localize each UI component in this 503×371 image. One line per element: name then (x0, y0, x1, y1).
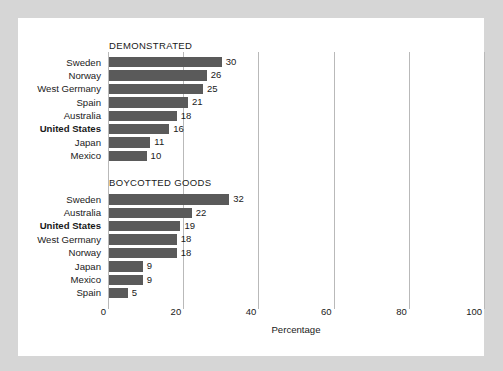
bar-row: Sweden30 (108, 56, 484, 69)
bar-value-label: 5 (132, 287, 137, 299)
bar-value-label: 10 (151, 150, 162, 162)
x-tick-40 (258, 302, 259, 309)
category-label: Norway (68, 246, 101, 259)
bar-row: Japan9 (108, 260, 484, 273)
group-title: DEMONSTRATED (109, 40, 192, 51)
category-label: West Germany (37, 82, 101, 95)
bar-row: Australia22 (108, 207, 484, 220)
bar-value-label: 26 (211, 69, 222, 81)
bar (109, 275, 143, 285)
bar-row: West Germany18 (108, 233, 484, 246)
bar (109, 248, 177, 258)
bar (109, 151, 147, 161)
bar-value-label: 22 (196, 207, 207, 219)
bar-row: Norway18 (108, 247, 484, 260)
x-tick-label-20: 20 (171, 306, 184, 317)
x-tick-label-60: 60 (321, 306, 334, 317)
x-axis-title: Percentage (108, 324, 484, 335)
x-tick-80 (409, 302, 410, 309)
category-label: Sweden (66, 193, 101, 206)
bar (109, 234, 177, 244)
x-tick-label-0: 0 (101, 306, 108, 317)
bar (109, 70, 207, 80)
category-label: Norway (68, 69, 101, 82)
bar-value-label: 32 (233, 193, 244, 205)
bar-value-label: 18 (181, 233, 192, 245)
group-rows: Sweden32Australia22United States19West G… (108, 193, 484, 300)
bar-row: Norway26 (108, 69, 484, 82)
bar-value-label: 9 (147, 274, 152, 286)
category-label: Australia (64, 109, 101, 122)
category-label: Australia (64, 206, 101, 219)
category-label: United States (40, 122, 101, 135)
category-label: Spain (76, 96, 101, 109)
x-tick-20 (183, 302, 184, 309)
bar-value-label: 11 (154, 136, 164, 148)
category-label: Spain (76, 286, 101, 299)
bar-value-label: 9 (147, 260, 152, 272)
group-title: BOYCOTTED GOODS (109, 177, 211, 188)
plot-area: DEMONSTRATEDSweden30Norway26West Germany… (108, 40, 484, 340)
bar-row: United States19 (108, 220, 484, 233)
bar-row: Mexico9 (108, 274, 484, 287)
x-tick-label-40: 40 (246, 306, 259, 317)
bar-row: United States16 (108, 123, 484, 136)
bar-row: Mexico10 (108, 150, 484, 163)
bar-value-label: 18 (181, 110, 192, 122)
bar-value-label: 16 (173, 123, 184, 135)
category-label: Sweden (66, 56, 101, 69)
bar (109, 84, 203, 94)
bar (109, 111, 177, 121)
bar (109, 288, 128, 298)
bar-value-label: 21 (192, 96, 203, 108)
bar (109, 57, 222, 67)
bar-row: Sweden32 (108, 193, 484, 206)
bar-row: Spain21 (108, 96, 484, 109)
bar-value-label: 25 (207, 83, 218, 95)
x-tick-label-100: 100 (466, 306, 484, 317)
x-tick-100 (484, 302, 485, 309)
category-label: West Germany (37, 233, 101, 246)
bar (109, 208, 192, 218)
category-label: Mexico (71, 149, 101, 162)
x-tick-60 (334, 302, 335, 309)
bar-row: Spain5 (108, 287, 484, 300)
screenshot-root: DEMONSTRATEDSweden30Norway26West Germany… (0, 0, 503, 371)
category-label: Japan (75, 136, 101, 149)
x-tick-0 (108, 302, 109, 309)
gridline-100 (484, 52, 485, 302)
bar (109, 97, 188, 107)
bar-value-label: 30 (226, 56, 237, 68)
bar-value-label: 18 (181, 247, 192, 259)
bar (109, 194, 229, 204)
chart-panel: DEMONSTRATEDSweden30Norway26West Germany… (18, 18, 484, 356)
category-label: United States (40, 219, 101, 232)
bar-row: West Germany25 (108, 83, 484, 96)
group-rows: Sweden30Norway26West Germany25Spain21Aus… (108, 56, 484, 163)
bar-value-label: 19 (184, 220, 195, 232)
bar (109, 221, 180, 231)
category-label: Mexico (71, 273, 101, 286)
bar (109, 124, 169, 134)
bar (109, 137, 150, 147)
x-tick-label-80: 80 (396, 306, 409, 317)
bar-row: Japan11 (108, 136, 484, 149)
category-label: Japan (75, 260, 101, 273)
bar (109, 261, 143, 271)
bar-row: Australia18 (108, 110, 484, 123)
